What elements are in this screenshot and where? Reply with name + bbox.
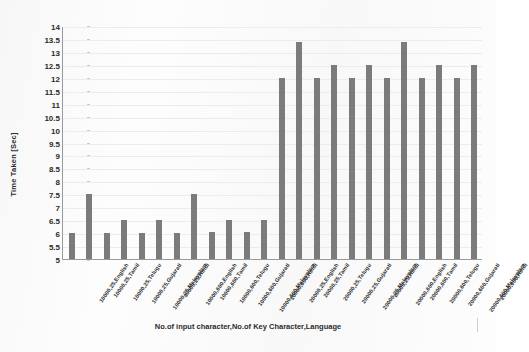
bar [384,78,390,259]
y-axis-tick-label: 13.5 [44,35,60,44]
y-axis-tick-label: 10.5 [44,113,60,122]
y-axis-tick-label: 9.5 [49,139,60,148]
y-axis-tick-label: 5.5 [49,243,60,252]
y-axis-tick-label: 14 [51,23,60,32]
bar [104,233,110,259]
y-axis-tick-label: 11.5 [45,87,60,96]
bar [69,233,75,259]
bar [419,78,425,259]
bar [349,78,355,259]
y-axis-tick-label: 13 [51,48,60,57]
bar [226,220,232,259]
y-axis-tick-label: 11 [52,100,60,109]
y-axis-tick-label: 6 [56,230,60,239]
y-axis-tick-label: 7 [56,204,60,213]
bar [244,232,250,259]
bar [331,65,337,259]
bar [86,194,92,259]
bar [436,65,442,259]
x-axis-category-label: 20000,600,Hindi [499,262,529,301]
page-edge-mark [477,318,478,332]
bar [174,233,180,259]
bar [121,220,127,259]
bar [209,232,215,259]
bar [156,220,162,259]
bars-layer [63,27,482,259]
bar [139,233,145,259]
y-axis-tick-label: 12 [51,74,60,83]
x-axis-category-label: 10000,25,Hindi [182,262,210,298]
x-axis-title: No.of input character,No.of Key Characte… [0,322,496,331]
plot-area [62,27,482,260]
y-axis-tick-label: 7.5 [49,191,60,200]
y-axis-tick-label: 9 [56,152,60,161]
bar [191,194,197,259]
y-axis-title: Time Taken [Sec] [6,104,20,224]
y-axis-tick-labels: 55.566.577.588.599.51010.51111.51212.513… [28,27,60,260]
x-axis-category-labels: 10000,25,English10000,25,Tamil10000,25,T… [62,262,482,324]
bar [279,78,285,259]
y-axis-tick-label: 10 [51,126,60,135]
y-axis-title-text: Time Taken [Sec] [9,132,18,196]
bar [314,78,320,259]
bar [471,65,477,259]
bar [261,220,267,259]
y-axis-tick-label: 6.5 [49,217,60,226]
bar [401,42,407,259]
x-axis-category-label: 20000,25,Hindi [392,262,420,298]
y-axis-tick-label: 8 [56,178,60,187]
y-axis-tick-label: 12.5 [44,61,60,70]
bar [366,65,372,259]
bar [454,78,460,259]
bar [296,42,302,259]
y-axis-tick-label: 8.5 [49,165,60,174]
y-axis-tick-label: 5 [56,256,60,265]
